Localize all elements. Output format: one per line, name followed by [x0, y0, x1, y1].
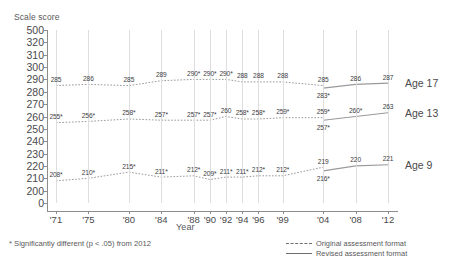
x-axis-tick-mark — [88, 211, 89, 214]
data-point-label: 216* — [317, 175, 330, 182]
x-axis-tick-mark — [388, 211, 389, 214]
x-axis-line — [47, 211, 398, 212]
x-axis-tick-label: '88 — [187, 214, 199, 225]
y-axis-tick-mark — [44, 154, 47, 155]
y-axis-tick-label: 250 — [26, 124, 44, 135]
y-axis-tick-label: 500 — [26, 25, 44, 36]
plot-area: 5003203103002902802702602502402302202102… — [47, 30, 397, 203]
data-point-label: 288 — [237, 72, 248, 79]
gridline — [242, 30, 243, 203]
x-axis-tick-label: '80 — [123, 214, 135, 225]
x-axis-tick-label: '94 — [236, 214, 248, 225]
gridline — [388, 30, 389, 203]
x-axis-tick-label: '84 — [155, 214, 167, 225]
series-label-age-17: Age 17 — [405, 77, 438, 89]
legend: Original assessment format Revised asses… — [286, 238, 407, 258]
solid-line-icon — [286, 253, 312, 254]
x-axis-tick-mark — [56, 211, 57, 214]
data-point-label: 255* — [49, 113, 62, 120]
y-axis-title: Scale score — [14, 12, 60, 22]
x-axis-tick-mark — [323, 211, 324, 214]
legend-label-original: Original assessment format — [316, 239, 406, 248]
y-axis-tick-label: 220 — [26, 161, 44, 172]
y-axis-tick-mark — [44, 117, 47, 118]
data-point-label: 220 — [350, 156, 361, 163]
data-point-label: 257* — [155, 111, 168, 118]
data-point-label: 263 — [383, 103, 394, 110]
data-point-label: 219 — [318, 158, 329, 165]
x-axis-tick-label: '96 — [252, 214, 264, 225]
legend-item-revised: Revised assessment format — [286, 248, 407, 258]
data-point-label: 221 — [383, 155, 394, 162]
y-axis-tick-mark — [44, 166, 47, 167]
data-point-label: 212* — [252, 166, 265, 173]
y-axis-tick-label: 200 — [26, 185, 44, 196]
data-point-label: 286 — [350, 75, 361, 82]
significance-footnote: * Significantly different (p < .05) from… — [9, 239, 151, 248]
data-point-label: 286 — [83, 75, 94, 82]
x-axis-tick-mark — [283, 211, 284, 214]
data-point-label: 259* — [276, 108, 289, 115]
series-label-age-9: Age 9 — [405, 159, 432, 171]
x-axis-tick-label: '75 — [82, 214, 94, 225]
x-axis-tick-mark — [161, 211, 162, 214]
x-axis-tick-mark — [258, 211, 259, 214]
data-point-label: 256* — [82, 112, 95, 119]
y-axis-tick-mark — [44, 203, 47, 204]
gridline — [356, 30, 357, 203]
x-axis-tick-mark — [356, 211, 357, 214]
y-axis-tick-label: 260 — [26, 111, 44, 122]
x-axis-tick-label: '12 — [382, 214, 394, 225]
data-point-label: 258* — [252, 109, 265, 116]
data-point-label: 258* — [236, 109, 249, 116]
y-axis-tick-mark — [44, 129, 47, 130]
dashed-line-icon — [286, 243, 312, 244]
gridline — [283, 30, 284, 203]
legend-label-revised: Revised assessment format — [316, 249, 407, 258]
data-point-label: 290* — [203, 70, 216, 77]
y-axis-tick-label: 320 — [26, 37, 44, 48]
y-axis-tick-label: 240 — [26, 136, 44, 147]
data-point-label: 258* — [122, 109, 135, 116]
data-point-label: 285 — [318, 76, 329, 83]
data-point-label: 212* — [276, 166, 289, 173]
x-axis-tick-mark — [129, 211, 130, 214]
data-point-label: 209* — [203, 170, 216, 177]
data-point-label: 260* — [349, 107, 362, 114]
y-axis-tick-label: 310 — [26, 49, 44, 60]
data-point-label: 211* — [236, 168, 249, 175]
x-axis-tick-mark — [194, 211, 195, 214]
data-point-label: 211* — [155, 168, 168, 175]
x-axis-tick-label: '90 — [204, 214, 216, 225]
x-axis-tick-mark — [226, 211, 227, 214]
y-axis-tick-mark — [44, 178, 47, 179]
data-point-label: 288 — [253, 72, 264, 79]
line-chart: Scale score 5003203103002902802702602502… — [0, 0, 471, 269]
x-axis-tick-label: '99 — [277, 214, 289, 225]
y-axis-tick-mark — [44, 55, 47, 56]
y-axis-tick-mark — [44, 92, 47, 93]
legend-item-original: Original assessment format — [286, 238, 407, 248]
data-point-label: 210* — [82, 169, 95, 176]
x-axis-tick-label: '71 — [50, 214, 62, 225]
x-axis-tick-label: '92 — [220, 214, 232, 225]
data-point-label: 211* — [220, 168, 233, 175]
data-point-label: 259* — [317, 108, 330, 115]
data-point-label: 290* — [187, 70, 200, 77]
data-point-label: 257* — [187, 111, 200, 118]
y-axis-tick-label: 230 — [26, 148, 44, 159]
x-axis-tick-mark — [242, 211, 243, 214]
gridline — [258, 30, 259, 203]
data-point-label: 260 — [221, 107, 232, 114]
y-axis-tick-label: 290 — [26, 74, 44, 85]
y-axis-tick-mark — [44, 141, 47, 142]
y-axis-tick-label: 210 — [26, 173, 44, 184]
y-axis-tick-label: 270 — [26, 99, 44, 110]
data-point-label: 285 — [124, 76, 135, 83]
y-axis-tick-label: 300 — [26, 62, 44, 73]
y-axis-tick-mark — [44, 79, 47, 80]
y-axis-tick-mark — [44, 67, 47, 68]
gridline — [129, 30, 130, 203]
data-point-label: 257* — [203, 111, 216, 118]
data-point-label: 257* — [317, 124, 330, 131]
